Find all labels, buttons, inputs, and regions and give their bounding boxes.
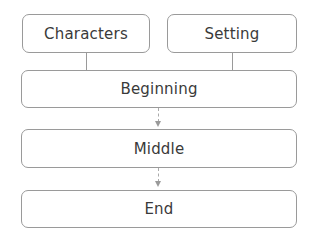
beginning-label: Beginning	[120, 80, 197, 98]
setting-label: Setting	[204, 25, 259, 43]
characters-box: Characters	[22, 14, 150, 53]
end-box: End	[21, 190, 297, 228]
connector-beginning-middle	[158, 108, 159, 122]
beginning-box: Beginning	[21, 70, 297, 108]
middle-box: Middle	[21, 129, 297, 168]
connector-setting-beginning	[232, 53, 233, 70]
characters-label: Characters	[44, 25, 128, 43]
setting-box: Setting	[167, 14, 297, 53]
end-label: End	[144, 200, 173, 218]
connector-characters-beginning	[86, 53, 87, 70]
arrow-down-icon	[155, 181, 161, 187]
arrow-down-icon	[155, 121, 161, 127]
middle-label: Middle	[134, 140, 185, 158]
connector-middle-end	[158, 168, 159, 182]
